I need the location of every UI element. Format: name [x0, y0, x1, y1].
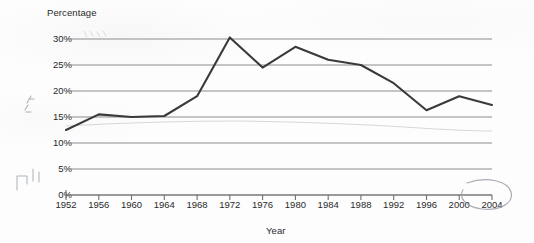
scan-ghost-line — [66, 121, 492, 131]
x-axis — [66, 190, 492, 196]
handwritten-annotations — [17, 31, 511, 209]
scanned-chart-page: Percentage Year 30% 25% 20% 15% 10% 5% 0… — [0, 0, 534, 243]
data-series-line — [66, 37, 492, 130]
handwritten-mark-left-lower — [17, 169, 39, 190]
handwritten-mark-left-upper — [25, 96, 34, 112]
x-axis-ticks — [66, 195, 492, 200]
faint-mark-top — [84, 31, 106, 37]
line-chart-plot — [0, 0, 534, 243]
